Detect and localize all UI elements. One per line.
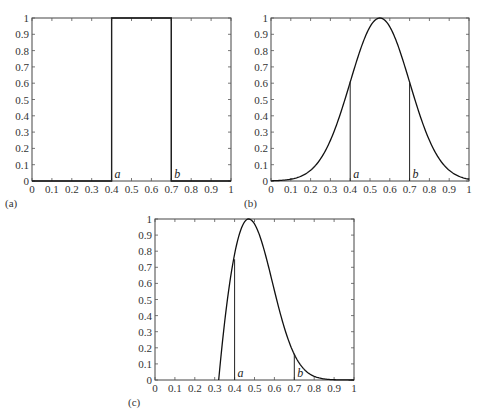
y-tick-label: 0.6 xyxy=(138,277,152,289)
y-tick-label: 0.3 xyxy=(254,126,268,138)
y-tick-label: 0 xyxy=(24,175,30,187)
y-tick-label: 0.1 xyxy=(254,159,268,171)
plot-frame xyxy=(155,219,354,380)
x-tick-label: 0.5 xyxy=(125,183,139,195)
x-tick-label: 0.4 xyxy=(228,382,242,394)
x-tick-label: 0.9 xyxy=(327,382,341,394)
y-tick-label: 0.2 xyxy=(138,342,152,354)
x-tick-label: 0.7 xyxy=(164,183,178,195)
y-tick-label: 0.7 xyxy=(254,61,268,73)
y-tick-label: 0.3 xyxy=(15,126,29,138)
x-tick-label: 0.7 xyxy=(403,183,417,195)
chart-panel-a: 00.10.20.30.40.50.60.70.80.9100.10.20.30… xyxy=(5,12,234,210)
y-tick-label: 0.7 xyxy=(15,61,29,73)
x-tick-label: 0.8 xyxy=(184,183,198,195)
x-tick-label: 0.9 xyxy=(442,183,456,195)
bound-label-b: b xyxy=(174,167,180,181)
x-tick-label: 0.6 xyxy=(383,183,397,195)
panel-label: (b) xyxy=(244,197,257,210)
x-tick-label: 0.2 xyxy=(304,183,318,195)
x-tick-label: 0.3 xyxy=(324,183,338,195)
x-tick-label: 0.5 xyxy=(248,382,262,394)
x-tick-label: 0.7 xyxy=(287,382,301,394)
membership-curve xyxy=(32,18,231,181)
x-tick-label: 0.2 xyxy=(188,382,202,394)
plot-frame xyxy=(271,18,469,181)
x-tick-label: 0.6 xyxy=(268,382,282,394)
x-tick-label: 1 xyxy=(228,183,234,195)
y-tick-label: 0 xyxy=(147,374,153,386)
chart-panel-c: 00.10.20.30.40.50.60.70.80.9100.10.20.30… xyxy=(128,213,357,409)
x-tick-label: 0.6 xyxy=(145,183,159,195)
bound-label-b: b xyxy=(297,366,303,380)
x-tick-label: 0.2 xyxy=(65,183,79,195)
y-tick-label: 0.6 xyxy=(254,77,268,89)
bound-label-a: a xyxy=(353,167,359,181)
chart-panel-b: 00.10.20.30.40.50.60.70.80.9100.10.20.30… xyxy=(244,12,472,210)
x-tick-label: 0.8 xyxy=(307,382,321,394)
y-tick-label: 0.2 xyxy=(15,142,29,154)
membership-curve xyxy=(271,18,469,181)
x-tick-label: 1 xyxy=(466,183,472,195)
bound-label-b: b xyxy=(413,167,419,181)
y-tick-label: 0.5 xyxy=(15,94,29,106)
x-tick-label: 0.4 xyxy=(105,183,119,195)
y-tick-label: 0.4 xyxy=(254,110,268,122)
x-tick-label: 0.4 xyxy=(343,183,357,195)
x-tick-label: 0.3 xyxy=(85,183,99,195)
bound-label-a: a xyxy=(238,366,244,380)
bound-label-a: a xyxy=(115,167,121,181)
y-tick-label: 0 xyxy=(263,175,269,187)
y-tick-label: 0.8 xyxy=(138,245,152,257)
x-tick-label: 1 xyxy=(351,382,357,394)
y-tick-label: 0.7 xyxy=(138,261,152,273)
x-tick-label: 0.5 xyxy=(363,183,377,195)
x-tick-label: 0.9 xyxy=(204,183,218,195)
y-tick-label: 0.6 xyxy=(15,77,29,89)
y-tick-label: 0.4 xyxy=(138,310,152,322)
y-tick-label: 0.9 xyxy=(254,28,268,40)
y-tick-label: 0.8 xyxy=(254,45,268,57)
y-tick-label: 0.1 xyxy=(138,358,152,370)
y-tick-label: 0.9 xyxy=(15,28,29,40)
x-tick-label: 0 xyxy=(29,183,35,195)
x-tick-label: 0 xyxy=(268,183,274,195)
figure: 00.10.20.30.40.50.60.70.80.9100.10.20.30… xyxy=(0,0,481,419)
y-tick-label: 0.5 xyxy=(138,294,152,306)
figure-caption xyxy=(0,412,481,419)
y-tick-label: 0.5 xyxy=(254,94,268,106)
x-tick-label: 0.3 xyxy=(208,382,222,394)
y-tick-label: 0.1 xyxy=(15,159,29,171)
y-tick-label: 0.2 xyxy=(254,142,268,154)
panel-label: (c) xyxy=(128,396,141,409)
y-tick-label: 1 xyxy=(263,12,269,24)
membership-curve xyxy=(219,219,354,380)
x-tick-label: 0 xyxy=(152,382,158,394)
plot-frame xyxy=(32,18,231,181)
x-tick-label: 0.1 xyxy=(284,183,298,195)
x-tick-label: 0.1 xyxy=(168,382,182,394)
y-tick-label: 0.9 xyxy=(138,229,152,241)
panel-label: (a) xyxy=(5,197,18,210)
y-tick-label: 0.4 xyxy=(15,110,29,122)
x-tick-label: 0.8 xyxy=(423,183,437,195)
y-tick-label: 0.3 xyxy=(138,326,152,338)
y-tick-label: 1 xyxy=(147,213,153,225)
x-tick-label: 0.1 xyxy=(45,183,59,195)
y-tick-label: 1 xyxy=(24,12,30,24)
y-tick-label: 0.8 xyxy=(15,45,29,57)
